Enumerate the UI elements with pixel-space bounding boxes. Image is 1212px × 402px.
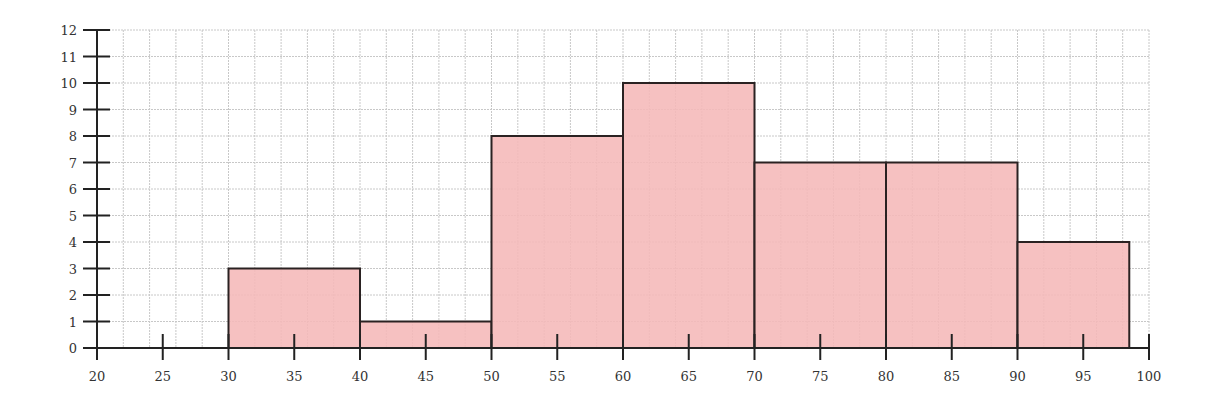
x-tick-label: 35: [286, 369, 303, 384]
x-axis-tick-labels: 20253035404550556065707580859095100: [89, 369, 1162, 384]
y-tick-label: 6: [69, 182, 77, 197]
y-tick-label: 2: [69, 288, 77, 303]
x-tick-label: 25: [154, 369, 171, 384]
x-tick-label: 30: [220, 369, 237, 384]
x-tick-label: 50: [483, 369, 500, 384]
x-tick-label: 70: [746, 369, 763, 384]
y-tick-label: 9: [69, 103, 77, 118]
y-tick-label: 0: [69, 341, 77, 356]
histogram-bar: [755, 163, 887, 349]
x-tick-label: 55: [549, 369, 566, 384]
y-tick-label: 4: [69, 235, 77, 250]
x-tick-label: 45: [417, 369, 434, 384]
x-tick-label: 100: [1137, 369, 1162, 384]
histogram-bar: [492, 136, 624, 348]
x-tick-label: 20: [89, 369, 106, 384]
x-tick-label: 75: [812, 369, 829, 384]
x-tick-label: 85: [943, 369, 960, 384]
histogram-bar: [623, 83, 755, 348]
y-tick-label: 1: [69, 315, 77, 330]
y-tick-label: 3: [69, 262, 77, 277]
histogram-bars: [229, 83, 1130, 348]
y-tick-label: 12: [60, 23, 77, 38]
histogram-bar: [886, 163, 1018, 349]
y-axis-tick-labels: 0123456789101112: [60, 23, 77, 356]
histogram-chart: 0123456789101112 20253035404550556065707…: [0, 0, 1212, 402]
x-tick-label: 90: [1009, 369, 1026, 384]
y-tick-label: 8: [69, 129, 77, 144]
x-tick-label: 95: [1075, 369, 1092, 384]
x-tick-label: 60: [615, 369, 632, 384]
x-tick-label: 65: [680, 369, 697, 384]
y-tick-label: 5: [69, 209, 77, 224]
x-tick-label: 80: [878, 369, 895, 384]
x-tick-label: 40: [352, 369, 369, 384]
histogram-bar: [1018, 242, 1130, 348]
y-tick-label: 11: [60, 50, 77, 65]
y-tick-label: 7: [69, 156, 77, 171]
y-tick-label: 10: [60, 76, 77, 91]
